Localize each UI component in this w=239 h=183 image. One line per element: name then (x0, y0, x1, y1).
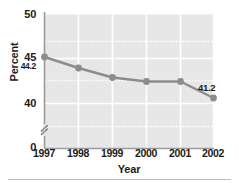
x-axis-title: Year (44, 163, 214, 175)
data-point-2001[interactable] (177, 78, 184, 85)
data-point-2000[interactable] (143, 78, 150, 85)
x-tick-label-1997: 1997 (27, 147, 61, 159)
y-value-label-44-2: 44.2 (6, 61, 36, 71)
line-chart-figure: Percent 50 45 44.2 40 0 1997 1998 1999 2… (0, 0, 239, 183)
x-tick-label-1999: 1999 (95, 147, 129, 159)
x-tick-label-2000: 2000 (129, 147, 163, 159)
x-tick-label-1998: 1998 (61, 147, 95, 159)
plot-background (45, 15, 214, 149)
y-tick-label-50: 50 (8, 8, 36, 20)
data-point-1999[interactable] (109, 74, 116, 81)
y-tick-label-40: 40 (8, 97, 36, 109)
data-point-1998[interactable] (75, 65, 82, 72)
x-tick-label-2002: 2002 (196, 147, 230, 159)
data-point-1997[interactable] (41, 54, 48, 61)
x-tick-label-2001: 2001 (163, 147, 197, 159)
data-point-2002[interactable] (210, 95, 217, 102)
data-label-41-2: 41.2 (198, 82, 215, 93)
bottom-divider (8, 179, 231, 180)
